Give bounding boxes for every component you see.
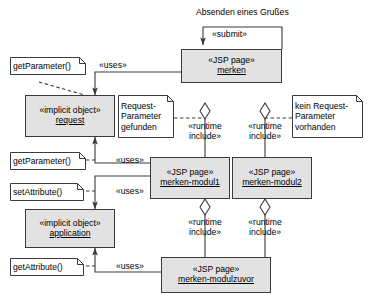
edge-merken-uses-request — [95, 72, 181, 95]
node-modulzuvor-name: merken-modulzuvor — [178, 275, 254, 285]
edge-label-uses-modul1-request: «uses» — [116, 155, 144, 165]
edge-label-uses-modulzuvor-application: «uses» — [116, 261, 144, 271]
note-setattribute: setAttribute() — [10, 183, 84, 201]
node-jsp-page-merken[interactable]: «JSP page» merken — [181, 49, 282, 83]
runtime-include-3-line2: include» — [189, 227, 221, 237]
node-modul1-name: merken-modul1 — [160, 178, 220, 188]
runtime-include-2-line1: «runtime — [248, 121, 281, 131]
note-request-found-line2: Parameter — [121, 111, 161, 121]
note-getparameter-1-body: getParameter() — [10, 57, 86, 75]
note-setattribute-line1: setAttribute() — [13, 187, 62, 197]
note-getattribute: getAttribute() — [10, 258, 84, 276]
diagram-title-label: Absenden eines Grußes — [196, 7, 289, 17]
note-getparameter-2-line1: getParameter() — [13, 156, 71, 166]
node-modul2-name: merken-modul2 — [242, 178, 302, 188]
note-getparameter-2: getParameter() — [10, 152, 86, 170]
runtime-include-1-line1: «runtime — [188, 121, 221, 131]
note-request-found-body: Request- Parameter gefunden — [118, 95, 174, 138]
note-getparameter-2-body: getParameter() — [10, 152, 86, 170]
node-request-name: request — [56, 116, 85, 126]
runtime-include-4-line2: include» — [249, 227, 281, 237]
note-request-parameter-gefunden: Request- Parameter gefunden — [118, 95, 174, 138]
runtime-include-2-line2: include» — [249, 131, 281, 141]
note-request-absent-line2: Parameter — [295, 111, 335, 121]
aggregation-diamond-merken-modul1 — [200, 103, 210, 119]
node-implicit-object-request[interactable]: «implicit object» request — [25, 95, 115, 137]
edge-label-runtime-include-1: «runtime include» — [173, 121, 237, 141]
note-getparameter-1-line1: getParameter() — [13, 61, 71, 71]
node-implicit-object-application[interactable]: «implicit object» application — [25, 209, 115, 248]
node-jsp-page-merken-modulzuvor[interactable]: «JSP page» merken-modulzuvor — [161, 257, 271, 293]
note-kein-request-parameter-vorhanden: kein Request- Parameter vorhanden — [292, 95, 363, 138]
node-jsp-page-merken-modul1[interactable]: «JSP page» merken-modul1 — [150, 157, 230, 199]
edge-label-runtime-include-3: «runtime include» — [173, 217, 237, 237]
uml-component-diagram: Absenden eines Grußes «submit» «uses» «u… — [0, 0, 373, 301]
note-request-absent-body: kein Request- Parameter vorhanden — [292, 95, 363, 138]
node-merken-name: merken — [217, 66, 246, 76]
runtime-include-4-line1: «runtime — [248, 217, 281, 227]
node-application-name: application — [49, 229, 90, 239]
aggregation-diamond-modul2-zuvor — [260, 199, 270, 215]
note-link-getparameter-1 — [39, 82, 88, 96]
runtime-include-3-line1: «runtime — [188, 217, 221, 227]
note-request-absent-line3: vorhanden — [295, 122, 336, 132]
aggregation-diamond-merken-modul2 — [260, 103, 270, 119]
note-getparameter-1: getParameter() — [10, 57, 86, 75]
edge-label-runtime-include-4: «runtime include» — [233, 217, 297, 237]
edge-label-uses-merken-request: «uses» — [99, 60, 127, 70]
aggregation-diamond-modul1-zuvor — [200, 199, 210, 215]
note-request-absent-line1: kein Request- — [295, 101, 348, 111]
edge-label-runtime-include-2: «runtime include» — [233, 121, 297, 141]
node-jsp-page-merken-modul2[interactable]: «JSP page» merken-modul2 — [232, 157, 312, 199]
note-request-found-line1: Request- — [121, 101, 156, 111]
note-setattribute-body: setAttribute() — [10, 183, 84, 201]
connector-layer — [0, 0, 373, 301]
edge-label-uses-modul1-application: «uses» — [116, 186, 144, 196]
note-getattribute-line1: getAttribute() — [13, 262, 63, 272]
edge-label-submit: «submit» — [212, 29, 247, 39]
runtime-include-1-line2: include» — [189, 131, 221, 141]
note-request-found-line3: gefunden — [121, 122, 157, 132]
note-getattribute-body: getAttribute() — [10, 258, 84, 276]
